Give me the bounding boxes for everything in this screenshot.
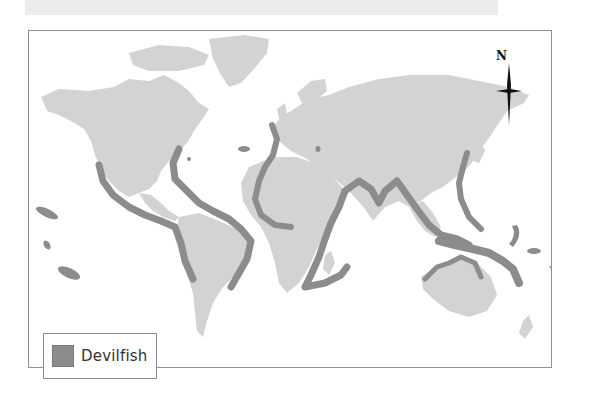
legend-label-devilfish: Devilfish	[81, 347, 148, 365]
world-map	[29, 31, 551, 367]
top-band	[25, 0, 498, 15]
compass-north-label: N	[496, 49, 507, 63]
mediterranean-dot	[316, 146, 321, 152]
island-range-3	[56, 263, 82, 282]
new-zealand	[519, 315, 533, 339]
island-range-2	[42, 239, 52, 251]
caribbean-dot	[187, 157, 191, 161]
arctic-islands	[129, 45, 209, 71]
hawaii-range	[34, 204, 59, 221]
madagascar	[323, 251, 335, 275]
greenland	[209, 35, 269, 87]
map-frame: N	[28, 30, 552, 368]
legend-swatch-devilfish	[52, 345, 74, 367]
australia	[421, 259, 497, 317]
solomon-range	[549, 266, 551, 285]
north-arrow-icon	[494, 53, 524, 125]
map-legend: Devilfish	[43, 333, 157, 379]
bermuda-range	[238, 146, 250, 152]
micronesia-range-1	[527, 248, 541, 254]
north-america	[41, 75, 209, 197]
philippines-range	[509, 225, 519, 247]
